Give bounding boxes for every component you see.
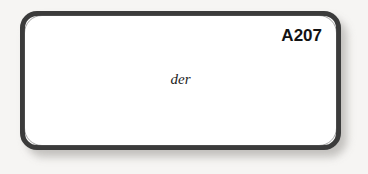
figure-canvas: A207 der [0, 0, 368, 174]
rounded-rectangle-frame: A207 der [20, 11, 341, 150]
figure-id-label: A207 [281, 27, 322, 44]
figure-center-word: der [25, 72, 336, 87]
